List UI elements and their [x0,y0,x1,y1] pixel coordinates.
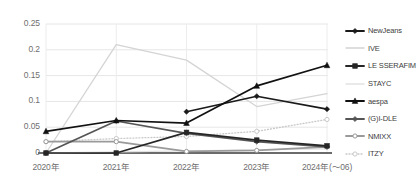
legend-item-aespa[interactable]: aespa [345,92,418,110]
data-point-le-sserafim [184,130,189,135]
legend-item-nmixx[interactable]: NMIXX [345,128,418,146]
data-point-le-sserafim [353,64,358,69]
legend-key-icon [345,96,365,106]
legend-label-le-sserafim: LE SSERAFIM [368,61,416,70]
legend-label-nmixx: NMIXX [368,132,391,141]
data-point-nmixx [44,140,48,144]
legend-swatch-ive [345,43,365,53]
data-point-newjeans [352,28,357,33]
x-tick-label: 2020年 [9,160,83,172]
legend-key-icon [345,61,365,71]
legend-swatch-le-sserafim [345,61,365,71]
data-point-newjeans [254,94,259,99]
y-tick-label: 0 [0,147,40,157]
y-tick-label: 0.2 [0,44,40,54]
legend-label-stayc: STAYC [368,79,391,88]
data-point-nmixx [114,140,118,144]
data-point-le-sserafim [114,151,119,156]
x-tick-label: 2021年 [79,160,153,172]
legend-item-g-i-dle[interactable]: (G)I-DLE [345,110,418,128]
legend-item-newjeans[interactable]: NewJeans [345,22,418,40]
legend-key-icon [345,79,365,89]
x-tick-label: 2023年 [220,160,294,172]
chart-legend: NewJeansIVELE SSERAFIMSTAYCaespa(G)I-DLE… [345,22,418,163]
legend-label-aespa: aespa [368,97,388,106]
x-tick-label: 2022年 [150,160,224,172]
legend-swatch-g-i-dle [345,114,365,124]
y-tick-label: 0.25 [0,18,40,28]
data-point-le-sserafim [254,138,259,143]
legend-swatch-newjeans [345,26,365,36]
data-point-nmixx [353,134,357,138]
legend-key-icon [345,149,365,159]
legend-key-icon [345,26,365,36]
data-point-le-sserafim [325,143,330,148]
legend-key-icon [345,131,365,141]
legend-swatch-stayc [345,79,365,89]
data-point-nmixx [255,148,259,152]
data-point-newjeans [184,109,189,114]
line-chart: 00.050.10.150.20.25 2020年2021年2022年2023年… [0,0,418,183]
data-point-g-i-dle [352,116,357,121]
data-point-nmixx [184,149,188,153]
data-point-itzy [255,129,259,133]
data-point-le-sserafim [44,151,49,156]
data-point-aespa [324,62,330,68]
y-tick-label: 0.1 [0,95,40,105]
legend-swatch-itzy [345,149,365,159]
data-point-newjeans [324,107,329,112]
legend-item-le-sserafim[interactable]: LE SSERAFIM [345,57,418,75]
y-tick-label: 0.15 [0,70,40,80]
legend-label-newjeans: NewJeans [368,26,402,35]
y-tick-label: 0.05 [0,121,40,131]
legend-item-stayc[interactable]: STAYC [345,75,418,93]
legend-label-g-i-dle: (G)I-DLE [368,114,397,123]
legend-swatch-nmixx [345,131,365,141]
legend-item-ive[interactable]: IVE [345,40,418,58]
legend-label-itzy: ITZY [368,149,384,158]
legend-key-icon [345,43,365,53]
legend-item-itzy[interactable]: ITZY [345,145,418,163]
data-point-itzy [353,152,357,156]
legend-key-icon [345,114,365,124]
legend-label-ive: IVE [368,44,380,53]
data-point-itzy [325,117,329,121]
legend-swatch-aespa [345,96,365,106]
